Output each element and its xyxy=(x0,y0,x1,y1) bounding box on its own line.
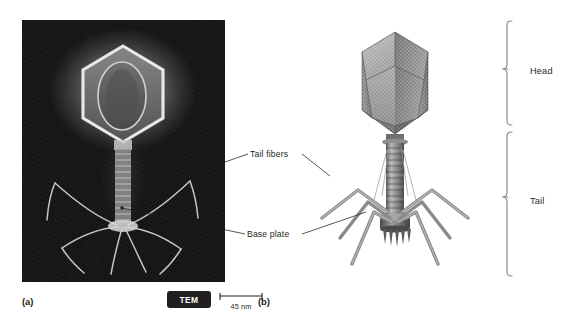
panel-label-a: (a) xyxy=(22,296,33,307)
tem-micrograph-panel xyxy=(22,20,225,282)
brace-label-head: Head xyxy=(530,66,553,76)
region-braces xyxy=(500,14,530,284)
figure-canvas: Tail fibers Base plate Head Tail (a) TEM… xyxy=(0,0,564,324)
callout-label-base-plate: Base plate xyxy=(247,229,289,239)
tem-badge-text: TEM xyxy=(179,295,198,305)
brace-label-tail: Tail xyxy=(530,196,545,206)
panel-label-b: (b) xyxy=(258,296,270,307)
phage-collar xyxy=(114,140,132,150)
phage-micrograph-drawing xyxy=(22,20,225,282)
phage-illustration-panel xyxy=(300,14,490,282)
phage-3d-rendering xyxy=(300,14,490,282)
tem-badge: TEM xyxy=(167,291,211,308)
tail-sheath xyxy=(386,143,404,219)
callout-label-tail-fibers: Tail fibers xyxy=(250,149,288,159)
capsid-head xyxy=(362,32,428,134)
